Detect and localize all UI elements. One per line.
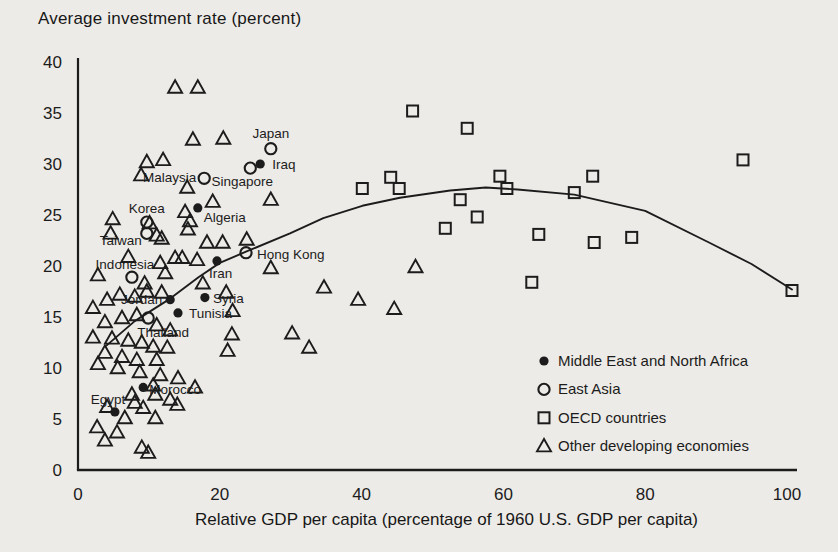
country-label: Korea [129, 201, 166, 216]
scanned-figure: Average investment rate (percent) 051015… [0, 0, 838, 552]
data-point-open-triangle [98, 346, 112, 358]
data-point-open-square [494, 171, 505, 182]
country-label: Malaysia [143, 170, 197, 185]
data-point-open-triangle [216, 235, 230, 247]
country-label: Thailand [137, 325, 189, 340]
x-tick-label: 20 [210, 485, 229, 504]
x-axis-title: Relative GDP per capita (percentage of 1… [0, 510, 838, 530]
country-label: Japan [252, 126, 289, 141]
data-point-open-triangle [118, 411, 132, 423]
data-point-open-triangle [156, 153, 170, 165]
data-point-open-triangle [225, 327, 239, 339]
data-point-open-triangle [168, 251, 182, 263]
data-point-open-triangle [190, 253, 204, 265]
data-point-filled-circle [212, 256, 221, 265]
y-tick-label: 30 [43, 155, 62, 174]
data-point-open-triangle [181, 222, 195, 234]
y-tick-label: 40 [43, 53, 62, 72]
legend-label: East Asia [558, 380, 621, 397]
y-tick-label: 0 [53, 461, 62, 480]
data-point-open-circle [245, 163, 256, 174]
legend-marker-open-triangle [537, 439, 551, 451]
country-label: Taiwan [100, 233, 142, 248]
data-point-filled-circle [200, 293, 209, 302]
x-tick-label: 40 [352, 485, 371, 504]
data-point-open-square [407, 106, 418, 117]
data-point-open-triangle [387, 302, 401, 314]
data-point-open-triangle [240, 232, 254, 244]
data-point-open-triangle [351, 293, 365, 305]
y-tick-label: 35 [43, 104, 62, 123]
data-point-open-square [440, 223, 451, 234]
legend-marker-open-square [539, 412, 550, 423]
data-point-open-triangle [133, 365, 147, 377]
data-point-open-square [357, 183, 368, 194]
y-tick-label: 20 [43, 257, 62, 276]
data-point-open-square [589, 237, 600, 248]
data-point-open-square [462, 123, 473, 134]
data-point-open-circle [126, 272, 137, 283]
data-point-open-triangle [160, 340, 174, 352]
data-point-open-square [533, 229, 544, 240]
data-point-open-square [385, 172, 396, 183]
data-point-open-square [472, 212, 483, 223]
data-point-open-triangle [175, 251, 189, 263]
data-point-open-triangle [86, 301, 100, 313]
country-label: Iraq [272, 157, 295, 172]
country-label: Tunisia [189, 306, 233, 321]
data-point-open-triangle [106, 212, 120, 224]
legend-label: Other developing economies [558, 437, 749, 454]
data-point-open-square [526, 277, 537, 288]
data-point-open-triangle [409, 260, 423, 272]
data-point-open-triangle [206, 195, 220, 207]
data-point-open-triangle [150, 353, 164, 365]
data-point-open-square [626, 232, 637, 243]
data-point-open-triangle [100, 293, 114, 305]
data-point-open-triangle [264, 261, 278, 273]
data-point-open-triangle [221, 344, 235, 356]
x-tick-label: 0 [73, 485, 82, 504]
data-point-open-circle [141, 228, 152, 239]
data-point-filled-circle [173, 308, 182, 317]
x-tick-label: 100 [773, 485, 801, 504]
country-label: Algeria [204, 210, 247, 225]
data-point-open-triangle [115, 311, 129, 323]
legend-label: Middle East and North Africa [558, 352, 749, 369]
data-point-open-square [738, 154, 749, 165]
country-label: Egypt [91, 392, 126, 407]
data-point-open-triangle [98, 433, 112, 445]
data-point-open-circle [199, 173, 210, 184]
data-point-open-square [455, 194, 466, 205]
scatter-plot: 0510152025303540020406080100JapanSingapo… [0, 0, 838, 552]
country-label: Syria [213, 291, 244, 306]
data-point-open-triangle [317, 280, 331, 292]
data-point-open-triangle [130, 353, 144, 365]
country-label: Singapore [212, 174, 274, 189]
data-point-open-triangle [140, 155, 154, 167]
data-point-open-triangle [191, 80, 205, 92]
legend-marker-filled-circle [539, 356, 548, 365]
data-point-filled-circle [193, 203, 202, 212]
data-point-open-triangle [302, 340, 316, 352]
data-point-filled-circle [166, 295, 175, 304]
data-point-open-circle [265, 143, 276, 154]
data-point-open-triangle [110, 425, 124, 437]
data-point-open-triangle [86, 330, 100, 342]
data-point-open-triangle [285, 326, 299, 338]
data-point-open-triangle [121, 333, 135, 345]
y-tick-label: 25 [43, 206, 62, 225]
country-label: Morocco [149, 382, 201, 397]
y-tick-label: 15 [43, 308, 62, 327]
data-point-open-triangle [90, 420, 104, 432]
x-tick-label: 80 [636, 485, 655, 504]
country-label: Hong Kong [257, 247, 325, 262]
country-label: Indonesia [96, 257, 155, 272]
y-tick-label: 5 [53, 410, 62, 429]
legend-label: OECD countries [558, 409, 666, 426]
data-point-filled-circle [139, 383, 148, 392]
x-tick-label: 60 [494, 485, 513, 504]
data-point-open-triangle [98, 315, 112, 327]
data-point-open-circle [143, 312, 154, 323]
data-point-open-square [394, 183, 405, 194]
data-point-open-triangle [216, 131, 230, 143]
